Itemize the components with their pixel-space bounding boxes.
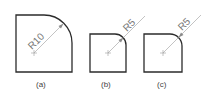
radius-label-a: R10 xyxy=(26,30,47,51)
figure-b: R5 (b) xyxy=(90,16,145,89)
caption-a: (a) xyxy=(36,80,46,89)
fillet-radius-diagram: R10 (a) R5 (b) R5 (c) xyxy=(0,0,208,96)
figure-a: R10 (a) xyxy=(16,15,72,89)
figure-c: R5 (c) xyxy=(144,15,201,89)
caption-c: (c) xyxy=(157,80,167,89)
radius-label-b: R5 xyxy=(121,16,138,33)
caption-b: (b) xyxy=(101,80,111,89)
radius-label-c: R5 xyxy=(176,15,193,32)
